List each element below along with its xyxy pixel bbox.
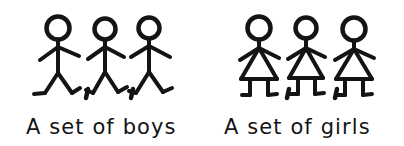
right-foot — [268, 94, 277, 95]
left-foot — [86, 90, 93, 93]
right-foot — [315, 93, 324, 94]
left-foot — [34, 93, 45, 94]
right-foot — [363, 94, 372, 95]
caption-girls: A set of girls — [224, 115, 371, 139]
caption-boys: A set of boys — [26, 115, 177, 139]
stick-figures-canvas: A set of boys A set of girls — [0, 0, 404, 146]
set-illustration: A set of boys A set of girls — [0, 0, 404, 146]
left-foot — [129, 91, 136, 93]
